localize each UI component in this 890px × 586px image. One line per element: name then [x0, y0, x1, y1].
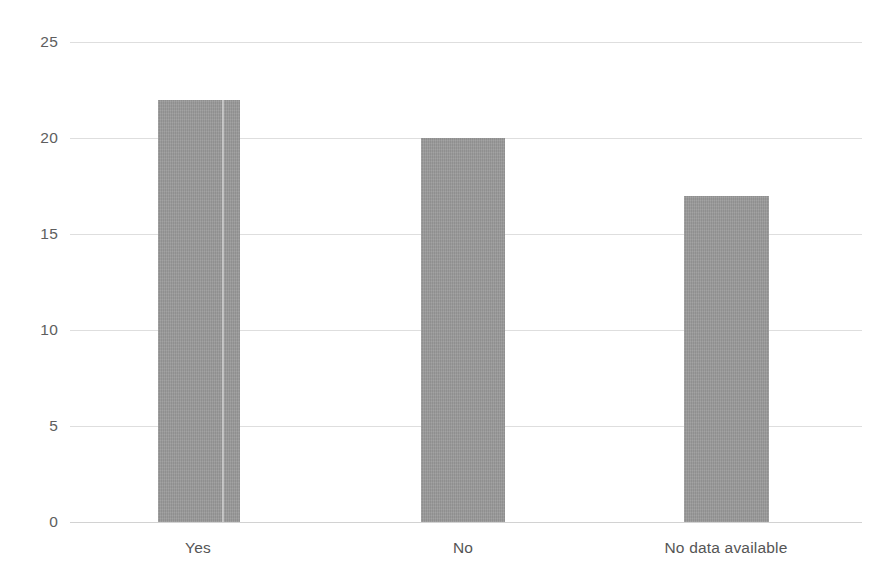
plot-area: [70, 42, 862, 522]
y-tick-label-20: 20: [14, 130, 58, 146]
gridline-25: [70, 42, 862, 43]
x-label-no-data-available: No data available: [664, 540, 787, 556]
scan-crease-artifact: [222, 100, 224, 522]
bar-yes[interactable]: [158, 100, 240, 522]
x-label-no: No: [453, 540, 473, 556]
y-axis-tick-labels: 25 20 15 10 5 0: [0, 42, 58, 522]
y-tick-label-5: 5: [14, 418, 58, 434]
y-tick-label-15: 15: [14, 226, 58, 242]
bar-no-data-available[interactable]: [684, 196, 769, 522]
axis-baseline: [70, 522, 862, 523]
y-tick-label-25: 25: [14, 34, 58, 50]
bar-no[interactable]: [421, 138, 505, 522]
y-tick-label-0: 0: [14, 514, 58, 530]
x-label-yes: Yes: [185, 540, 211, 556]
y-tick-label-10: 10: [14, 322, 58, 338]
bar-chart: 25 20 15 10 5 0 Yes No No data available: [0, 0, 890, 586]
